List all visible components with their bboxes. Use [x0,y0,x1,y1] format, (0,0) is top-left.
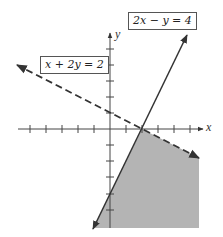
coordinate-graph [0,0,223,237]
equation-label-solid: 2x − y = 4 [128,12,197,30]
equation-label-dashed: x + 2y = 2 [40,56,109,74]
dashed-line-x-plus-2y-eq-2 [17,65,199,158]
shaded-solution-region [93,129,199,228]
x-axis-label: x [206,120,211,135]
y-axis-label: y [115,27,120,42]
